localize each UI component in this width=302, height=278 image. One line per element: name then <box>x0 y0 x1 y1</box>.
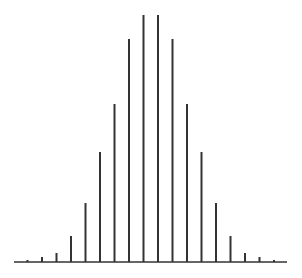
stem-chart <box>0 0 302 278</box>
stems-group <box>28 15 275 262</box>
